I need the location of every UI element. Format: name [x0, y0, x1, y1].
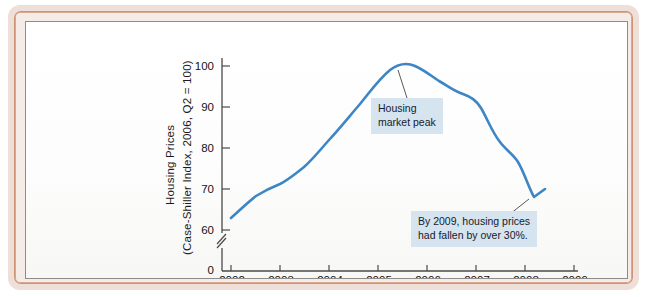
figure-frame: Housing Prices (Case-Shiller Index, 2006… [8, 5, 639, 290]
y-tick-label-100: 100 [182, 60, 214, 72]
y-tick-label-80: 80 [182, 142, 214, 154]
y-axis-break-icon [217, 234, 226, 248]
x-tick-label-2005: 2005 [363, 274, 395, 279]
chart-svg [26, 22, 628, 279]
annotation-housing-market-peak: Housing market peak [371, 98, 443, 134]
annotation-price-decline: By 2009, housing prices had fallen by ov… [411, 211, 537, 247]
x-tick-label-2009: 2009 [559, 274, 591, 279]
x-tick-label-2007: 2007 [461, 274, 493, 279]
y-tick-label-70: 70 [182, 183, 214, 195]
y-axis-ticks [222, 66, 230, 230]
x-tick-label-2003: 2003 [265, 274, 297, 279]
peak-callout-leader-line [398, 70, 407, 98]
y-tick-label-0: 0 [182, 264, 214, 276]
y-tick-label-60: 60 [182, 224, 214, 236]
y-tick-label-90: 90 [182, 101, 214, 113]
x-tick-label-2008: 2008 [510, 274, 542, 279]
x-tick-label-2006: 2006 [412, 274, 444, 279]
x-tick-label-2002: 2002 [216, 274, 248, 279]
plot-panel: Housing Prices (Case-Shiller Index, 2006… [25, 21, 628, 279]
housing-prices-line-chart: Housing Prices (Case-Shiller Index, 2006… [26, 22, 628, 279]
x-tick-label-2004: 2004 [314, 274, 346, 279]
x-axis-ticks [231, 265, 574, 271]
y-axis-title-line1: Housing Prices [164, 125, 176, 205]
housing-price-series-line [231, 64, 545, 218]
